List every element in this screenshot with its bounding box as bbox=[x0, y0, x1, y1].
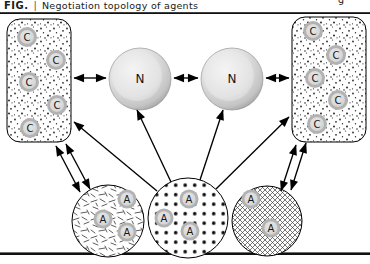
c-node-label: C bbox=[333, 50, 340, 61]
a-node: A bbox=[242, 190, 261, 209]
c-node: C bbox=[303, 21, 323, 41]
a-node: A bbox=[118, 190, 137, 209]
arrow-center-agents-negotiator1 bbox=[137, 110, 171, 182]
arrow-left-agents-left-cluster-1 bbox=[56, 146, 80, 192]
negotiator-label: N bbox=[228, 72, 237, 86]
a-node-label: A bbox=[161, 213, 168, 224]
arrow-right-agents-right-cluster-2 bbox=[281, 145, 296, 191]
negotiator-node-2: N bbox=[201, 48, 263, 110]
figure-caption-separator: | bbox=[34, 0, 37, 11]
a-node-label: A bbox=[187, 226, 194, 237]
a-node-label: A bbox=[186, 194, 193, 205]
c-node: C bbox=[307, 114, 327, 134]
figure-caption: FIG.|Negotiation topology of agents g bbox=[0, 0, 370, 11]
c-node-label: C bbox=[27, 123, 34, 134]
c-node: C bbox=[19, 72, 39, 92]
c-node: C bbox=[328, 90, 348, 110]
c-node-label: C bbox=[26, 77, 33, 88]
c-node: C bbox=[20, 118, 40, 138]
figure-caption-line: FIG.|Negotiation topology of agents bbox=[4, 0, 198, 11]
c-node-label: C bbox=[310, 26, 317, 37]
a-node: A bbox=[181, 222, 200, 241]
arrow-center-agents-right-cluster bbox=[216, 117, 289, 189]
figure-caption-fragment: g bbox=[338, 0, 344, 5]
figure-caption-label: FIG. bbox=[4, 0, 29, 11]
right-agent-group: A A bbox=[232, 186, 302, 256]
arrow-right-agents-right-cluster-1 bbox=[291, 143, 306, 190]
c-node: C bbox=[305, 68, 325, 88]
left-agent-group: A A A bbox=[72, 185, 144, 257]
negotiator-node-1: N bbox=[109, 48, 171, 110]
a-node: A bbox=[155, 209, 174, 228]
c-node-label: C bbox=[24, 32, 31, 43]
c-node-label: C bbox=[312, 73, 319, 84]
arrows bbox=[56, 78, 306, 192]
arrow-center-agents-negotiator2 bbox=[200, 110, 223, 180]
a-node-label: A bbox=[248, 194, 255, 205]
a-node-label: A bbox=[124, 194, 131, 205]
a-node: A bbox=[118, 223, 137, 242]
a-node-label: A bbox=[124, 227, 131, 238]
figure: FIG.|Negotiation topology of agents g bbox=[0, 0, 370, 264]
center-agent-group: A A A bbox=[148, 178, 228, 258]
top-rule bbox=[0, 12, 370, 14]
a-node-label: A bbox=[100, 214, 107, 225]
c-node: C bbox=[47, 95, 67, 115]
a-node-label: A bbox=[268, 223, 275, 234]
c-node: C bbox=[46, 50, 66, 70]
a-node: A bbox=[180, 190, 199, 209]
arrow-left-agents-left-cluster-2 bbox=[66, 144, 90, 189]
figure-caption-title: Negotiation topology of agents bbox=[42, 0, 198, 11]
c-node-label: C bbox=[53, 55, 60, 66]
c-node-label: C bbox=[314, 119, 321, 130]
right-cluster-container: C C C C C bbox=[292, 17, 366, 142]
c-node-label: C bbox=[335, 95, 342, 106]
arrow-center-agents-left-cluster bbox=[74, 122, 157, 191]
negotiator-label: N bbox=[136, 72, 145, 86]
c-node: C bbox=[17, 27, 37, 47]
c-node-label: C bbox=[54, 100, 61, 111]
a-node: A bbox=[94, 210, 113, 229]
a-node: A bbox=[262, 219, 281, 238]
c-node: C bbox=[326, 45, 346, 65]
left-cluster-container: C C C C C bbox=[7, 19, 71, 142]
topology-diagram: C C C C C C bbox=[0, 0, 370, 264]
